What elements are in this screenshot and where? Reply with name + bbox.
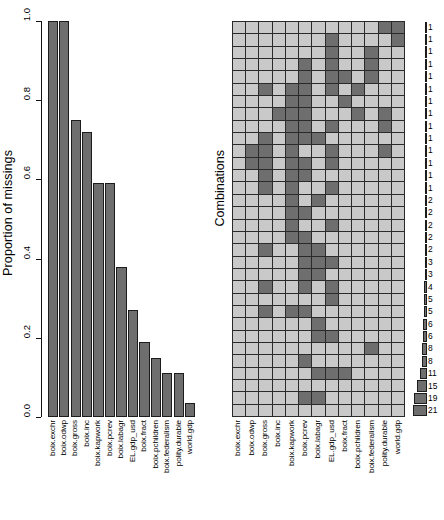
combination-cell [233, 380, 245, 391]
combination-cell [299, 47, 311, 58]
combination-cell [246, 269, 258, 280]
combination-count-bar [425, 182, 427, 193]
y-axis-tick-text: 0.4 [22, 246, 32, 259]
combination-cell [273, 34, 285, 45]
combination-cell [352, 380, 364, 391]
combination-count-bar [424, 281, 427, 292]
combination-cell [259, 158, 271, 169]
combination-count-value: 4 [428, 282, 444, 292]
combination-cell [246, 59, 258, 70]
combination-cell [246, 34, 258, 45]
combination-cell [365, 22, 377, 33]
combination-cell [286, 145, 298, 156]
combination-cell [379, 306, 391, 317]
combination-cell [379, 318, 391, 329]
combination-count-bar [414, 393, 427, 404]
combination-cell [339, 281, 351, 292]
combination-cell [273, 380, 285, 391]
combination-cell [326, 207, 338, 218]
combination-cell [379, 108, 391, 119]
combination-cell [379, 294, 391, 305]
combination-cell [259, 380, 271, 391]
combination-cell [286, 392, 298, 403]
combination-cell [365, 392, 377, 403]
combination-count-bar [425, 158, 427, 169]
combination-cell [286, 158, 298, 169]
combination-cell [379, 392, 391, 403]
combination-cell [339, 207, 351, 218]
combination-cell [365, 318, 377, 329]
combination-cell [299, 368, 311, 379]
combination-cell [339, 108, 351, 119]
combination-cell [339, 294, 351, 305]
combination-cell [299, 281, 311, 292]
combination-count-bar [422, 356, 427, 367]
bar-label: boix.federalism [163, 420, 171, 473]
combination-cell [365, 257, 377, 268]
combination-cell [352, 34, 364, 45]
combination-cell [259, 294, 271, 305]
combination-cell [352, 257, 364, 268]
combination-cell [286, 182, 298, 193]
combination-cell [299, 207, 311, 218]
bar-label: EL.gdp_usd [129, 420, 137, 462]
combination-cell [379, 71, 391, 82]
combination-cell [352, 269, 364, 280]
combination-cell [286, 22, 298, 33]
combination-cell [246, 294, 258, 305]
combination-cell [312, 59, 324, 70]
combination-count-bar [425, 46, 427, 57]
combination-count-value: 1 [428, 121, 444, 131]
combination-cell [259, 96, 271, 107]
combination-cell [392, 121, 404, 132]
combination-cell [379, 355, 391, 366]
combination-count-value: 15 [428, 381, 444, 391]
combination-cell [299, 121, 311, 132]
combination-cell [299, 96, 311, 107]
combination-count-bar [425, 269, 427, 280]
combination-cell [392, 392, 404, 403]
combination-cell [273, 22, 285, 33]
combination-cell [326, 108, 338, 119]
combination-count-value: 19 [428, 393, 444, 403]
combination-cell [233, 220, 245, 231]
combination-cell [365, 281, 377, 292]
combination-cell [379, 195, 391, 206]
combination-cell [392, 405, 404, 416]
combination-cell [326, 121, 338, 132]
combination-cell [286, 232, 298, 243]
combination-cell [233, 71, 245, 82]
bar-label: polity.durable [175, 420, 183, 466]
combination-cell [259, 318, 271, 329]
combinations-grid [232, 21, 405, 417]
combination-cell [352, 207, 364, 218]
combination-count-value: 5 [428, 306, 444, 316]
combination-cell [273, 108, 285, 119]
combination-cell [379, 368, 391, 379]
combination-cell [299, 59, 311, 70]
combination-cell [392, 281, 404, 292]
combination-cell [339, 331, 351, 342]
combination-cell [273, 195, 285, 206]
combination-cell [326, 244, 338, 255]
combination-cell [365, 59, 377, 70]
combination-cell [312, 34, 324, 45]
combination-cell [352, 133, 364, 144]
combination-count-bars [411, 21, 427, 417]
combination-cell [339, 380, 351, 391]
combination-cell [379, 121, 391, 132]
combination-cell [326, 133, 338, 144]
combination-cell [352, 22, 364, 33]
combination-cell [246, 207, 258, 218]
combination-cell [246, 121, 258, 132]
combination-cell [312, 220, 324, 231]
combination-cell [392, 96, 404, 107]
combination-cell [286, 331, 298, 342]
bar [48, 21, 58, 417]
combination-cell [365, 84, 377, 95]
combination-count-value: 2 [428, 207, 444, 217]
combination-cell [273, 170, 285, 181]
combination-count-value: 21 [428, 405, 444, 415]
combination-cell [246, 257, 258, 268]
combination-cell [352, 306, 364, 317]
